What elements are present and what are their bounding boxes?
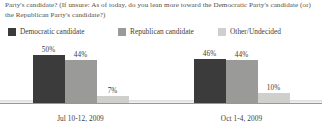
legend-label-other: Other/Undecided: [230, 27, 281, 36]
bar-item: 50%: [33, 45, 65, 103]
legend-label-republican: Republican candidate: [130, 27, 194, 36]
bar-value-label: 46%: [203, 50, 216, 58]
bar-value-label: 7%: [108, 87, 118, 95]
chart-legend: Democratic candidate Republican candidat…: [8, 25, 314, 38]
legend-item-democratic: Democratic candidate: [8, 25, 85, 38]
legend-label-democratic: Democratic candidate: [20, 27, 85, 36]
legend-swatch-other: [218, 28, 226, 36]
x-axis-label-jul: Jul 10-12, 2009: [0, 114, 161, 123]
bar-item: 7%: [97, 45, 129, 103]
bar-item: 10%: [258, 45, 290, 103]
bar-item: 44%: [226, 45, 258, 103]
bar-republican: [65, 60, 97, 103]
legend-item-other: Other/Undecided: [218, 25, 281, 38]
bar-democratic: [194, 59, 226, 103]
plot-area: 50% 44% 7% Jul 10-12, 2009 46%: [0, 42, 322, 127]
bar-republican: [226, 60, 258, 103]
bar-value-label: 50%: [42, 46, 55, 54]
bar-other: [97, 96, 129, 103]
question-text: Party's candidate? (If unsure: As of tod…: [5, 1, 317, 20]
bar-value-label: 44%: [235, 51, 248, 59]
bar-group-jul: 50% 44% 7% Jul 10-12, 2009: [0, 42, 161, 127]
bar-set: 46% 44% 10%: [161, 45, 322, 103]
bar-item: 44%: [65, 45, 97, 103]
bar-value-label: 10%: [267, 84, 280, 92]
bar-group-oct: 46% 44% 10% Oct 1-4, 2009: [161, 42, 322, 127]
legend-swatch-republican: [118, 28, 126, 36]
bar-democratic: [33, 55, 65, 103]
bar-item: 46%: [194, 45, 226, 103]
bar-set: 50% 44% 7%: [0, 45, 161, 103]
legend-item-republican: Republican candidate: [118, 25, 194, 38]
bar-other: [258, 93, 290, 103]
chart-figure: Party's candidate? (If unsure: As of tod…: [0, 0, 322, 127]
bar-value-label: 44%: [74, 51, 87, 59]
legend-swatch-democratic: [8, 28, 16, 36]
x-axis-label-oct: Oct 1-4, 2009: [161, 114, 322, 123]
